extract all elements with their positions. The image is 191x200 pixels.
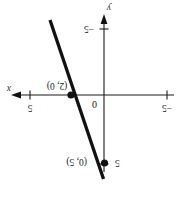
- y-axis-tick-label-positive-5: 5: [115, 158, 120, 168]
- x-axis-tick-label-negative-5: −5: [162, 103, 172, 113]
- x-axis-name-label: x: [6, 84, 12, 94]
- x-axis-arrow-icon: [11, 92, 21, 99]
- point-marker-2-0: [67, 91, 74, 98]
- figure-root: −5 5 0 5 −5 (2, 0) (0, 5) x y: [0, 0, 191, 200]
- point-label-2-0: (2, 0): [47, 80, 68, 91]
- x-axis-tick-label-positive-5: 5: [27, 103, 32, 113]
- origin-label: 0: [92, 99, 97, 110]
- y-axis-tick-label-negative-5: −5: [84, 24, 94, 34]
- y-axis-name-label: y: [106, 3, 112, 13]
- point-label-0-5: (0, 5): [66, 156, 87, 167]
- coordinate-graph: −5 5 0 5 −5 (2, 0) (0, 5) x y: [0, 0, 191, 200]
- rotated-figure-container: −5 5 0 5 −5 (2, 0) (0, 5) x y: [0, 0, 191, 200]
- point-marker-0-5: [101, 159, 108, 166]
- y-axis-arrow-icon: [101, 14, 108, 24]
